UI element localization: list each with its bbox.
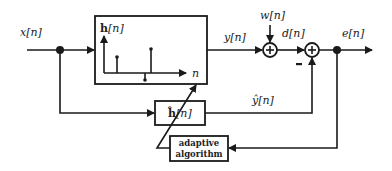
svg-text:adaptive: adaptive [179,138,220,148]
desired-label: d[n] [282,27,305,40]
h-label-bold: h[n] [100,22,124,35]
noise-label: w[n] [260,9,286,22]
error-label: e[n] [342,27,365,40]
minus-sign [296,63,302,65]
svg-text:ĥ[n]: ĥ[n] [167,106,192,120]
adaptive-filter-block: ĥ[n] [155,101,205,125]
axis-n-label: n [192,67,199,80]
estimate-label: ŷ[n] [251,94,275,107]
adaptive-filter-diagram: x[n] h[n] n y[n] w[n] d[n] [0,0,392,171]
adaptive-algorithm-block: adaptive algorithm [170,136,228,161]
svg-text:algorithm: algorithm [175,149,222,159]
feedback-line [229,50,337,148]
input-label: x[n] [20,26,43,39]
summer-1 [263,43,277,57]
unknown-system-block: h[n] n [95,16,207,84]
summer-2 [305,43,319,57]
output-label: y[n] [223,31,247,44]
